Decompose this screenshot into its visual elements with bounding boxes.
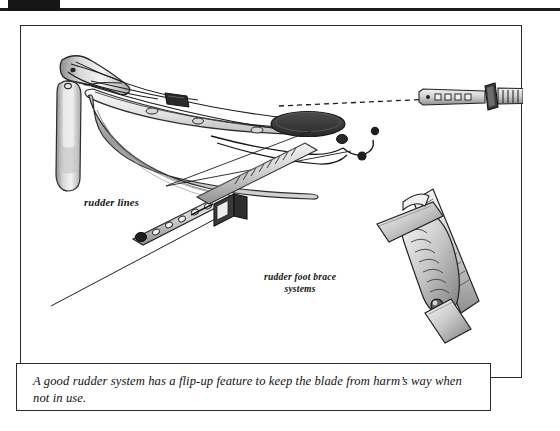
rudder-pedal-inset	[377, 189, 479, 343]
rail-end-cap	[135, 232, 146, 241]
label-rudder-lines: rudder lines	[84, 197, 139, 208]
foot-brace-rail	[498, 88, 523, 104]
page-top-black-block	[8, 0, 60, 11]
label-rudder-foot-brace-systems: rudder foot brace systems	[264, 271, 336, 294]
rudder-pivot-bolt	[70, 68, 75, 73]
kayak-stern-illustration	[56, 56, 379, 199]
foot-brace-pedal-inset	[419, 83, 523, 110]
leader-line-dashed	[279, 99, 433, 106]
figure-caption-box: A good rudder system has a flip-up featu…	[16, 363, 491, 411]
figure-caption-text: A good rudder system has a flip-up featu…	[33, 373, 473, 406]
pedal-face	[234, 194, 247, 219]
deck-hatch-cover	[271, 112, 345, 137]
deck-fairlead	[165, 93, 189, 107]
label-foot-brace-line2: systems	[284, 283, 315, 294]
label-foot-brace-line1: rudder foot brace	[264, 271, 336, 282]
figure-frame: rudder lines rudder foot brace systems	[20, 25, 522, 378]
page-top-rule	[0, 8, 560, 11]
control-cable	[51, 216, 221, 306]
